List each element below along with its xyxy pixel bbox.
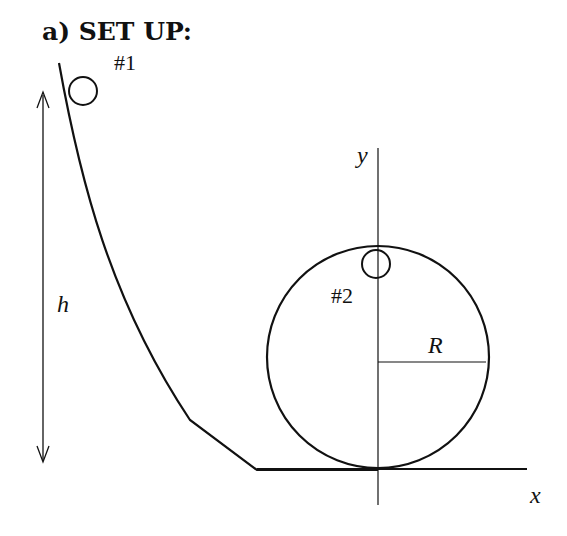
loop-the-loop-diagram: a) SET UP: #1 h x y R #2: [0, 0, 567, 536]
height-label: h: [57, 291, 69, 317]
ball2-icon: [362, 250, 390, 278]
ball2-label: #2: [331, 283, 353, 308]
ball1-icon: [69, 77, 97, 105]
ramp-track: [59, 63, 378, 470]
ball1-label: #1: [114, 50, 136, 75]
y-axis-label: y: [355, 142, 368, 168]
title: a) SET UP:: [42, 17, 192, 46]
x-axis-label: x: [529, 482, 541, 508]
radius-label: R: [427, 332, 443, 358]
